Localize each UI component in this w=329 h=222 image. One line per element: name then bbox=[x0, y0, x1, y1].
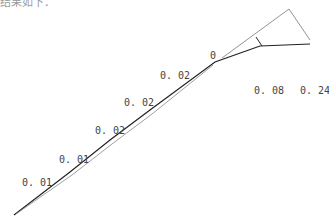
diagram: 结果如下： 0. 010. 010. 020. 020. 0200. 080. … bbox=[0, 0, 329, 222]
offset-line bbox=[16, 65, 213, 214]
value-label: 0 bbox=[210, 50, 216, 61]
value-label: 0. 02 bbox=[160, 70, 190, 81]
deflection-diagram: 0. 010. 010. 020. 020. 0200. 080. 24 bbox=[0, 0, 329, 222]
arrow bbox=[256, 37, 262, 46]
value-label: 0. 02 bbox=[95, 125, 125, 136]
value-label: 0. 01 bbox=[59, 154, 89, 165]
value-label: 0. 08 bbox=[254, 85, 284, 96]
triangle bbox=[222, 9, 310, 58]
value-label: 0. 01 bbox=[22, 177, 52, 188]
value-label: 0. 02 bbox=[124, 97, 154, 108]
value-label: 0. 24 bbox=[300, 85, 329, 96]
